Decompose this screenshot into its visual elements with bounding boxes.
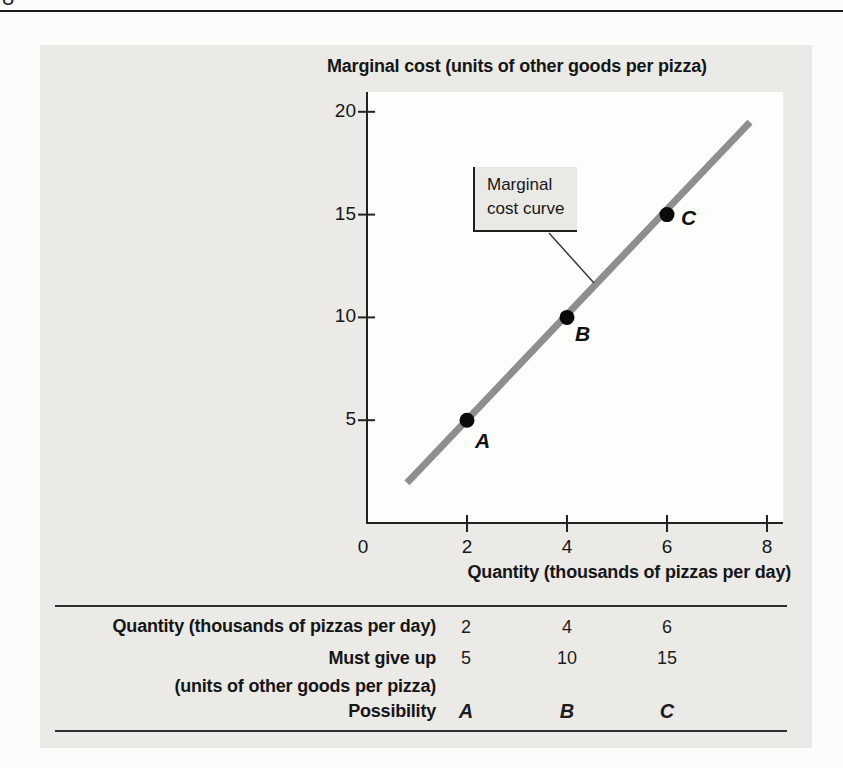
table-row-label-quantity: Quantity (thousands of pizzas per day) (56, 616, 436, 637)
marginal-cost-curve (407, 122, 750, 483)
table-cell-possibility: C (632, 700, 702, 723)
table-cell-possibility: A (431, 700, 501, 723)
table-cell: 4 (532, 617, 602, 638)
data-point-B (560, 310, 575, 325)
table-bottom-rule (55, 730, 787, 732)
table-cell: 15 (632, 648, 702, 669)
textbook-page: 8 Marginal cost (units of other goods pe… (0, 0, 843, 768)
callout-pointer-line (549, 233, 594, 283)
table-row-label-must-give-up-units: (units of other goods per pizza) (56, 676, 436, 697)
table-top-rule (55, 605, 787, 607)
table-cell: 2 (431, 617, 501, 638)
table-cell: 6 (632, 617, 702, 638)
data-point-C (660, 207, 675, 222)
curve-callout-text: Marginal cost curve (487, 175, 564, 218)
curve-callout-box: Marginal cost curve (473, 167, 577, 232)
table-row-label-possibility: Possibility (56, 701, 436, 722)
data-point-A (460, 413, 475, 428)
table-cell: 10 (532, 648, 602, 669)
x-axis-title: Quantity (thousands of pizzas per day) (400, 562, 791, 583)
table-row-label-must-give-up: Must give up (56, 648, 436, 669)
table-cell-possibility: B (532, 700, 602, 723)
table-cell: 5 (431, 648, 501, 669)
